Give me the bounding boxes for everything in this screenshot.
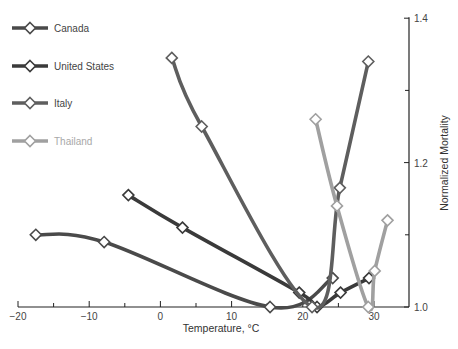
data-point-marker [265,302,276,313]
data-point-marker [30,229,41,240]
legend-item-italy: Italy [12,98,72,110]
y-axis-title: Normalized Mortality [438,114,450,210]
x-axis-title: Temperature, °C [183,322,260,334]
data-point-marker [334,182,345,193]
y-tick-label: 1.4 [414,13,428,24]
data-point-marker [166,52,177,63]
legend-label: Thailand [54,136,92,147]
data-point-marker [99,237,110,248]
legend-item-canada: Canada [12,23,89,35]
y-tick-label: 1.2 [414,158,428,169]
x-tick-label: 20 [297,311,309,322]
legend-label: Canada [54,23,89,34]
legend-item-thailand: Thailand [12,136,92,148]
data-point-marker [382,215,393,226]
series-canada [30,229,338,312]
series-italy [166,52,374,312]
series-line-canada [36,234,333,308]
legend-marker-icon [25,98,36,109]
y-tick-label: 1.0 [414,302,428,313]
x-tick-label: 0 [158,311,164,322]
mortality-chart: −20−1001020301.01.21.4 CanadaUnited Stat… [0,0,458,349]
series-lines [30,52,393,312]
legend-marker-icon [25,23,36,34]
data-point-marker [331,200,342,211]
legend-item-united-states: United States [12,61,114,73]
legend-marker-icon [25,136,36,147]
legend-label: United States [54,61,114,72]
x-tick-label: −10 [81,311,98,322]
legend-marker-icon [25,61,36,72]
data-point-marker [363,56,374,67]
legend: CanadaUnited StatesItalyThailand [12,23,114,148]
data-point-marker [310,114,321,125]
legend-label: Italy [54,98,72,109]
x-tick-label: 30 [368,311,380,322]
x-tick-label: 10 [226,311,238,322]
x-tick-label: −20 [10,311,27,322]
